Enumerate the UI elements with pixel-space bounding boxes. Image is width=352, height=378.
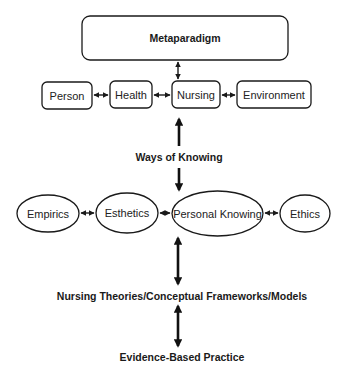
- metaparadigm-node: Metaparadigm: [82, 16, 288, 60]
- pattern-ethics: Ethics: [280, 195, 330, 232]
- metaparadigm-label: Metaparadigm: [149, 32, 220, 44]
- pattern-personal-knowing: Personal Knowing: [172, 191, 263, 236]
- pattern-esthetics: Esthetics: [96, 193, 158, 233]
- personal-knowing-label: Personal Knowing: [173, 208, 262, 220]
- ethics-label: Ethics: [290, 208, 320, 220]
- environment-label: Environment: [243, 89, 305, 101]
- practice-label: Evidence-Based Practice: [120, 351, 245, 363]
- pattern-empirics: Empirics: [17, 195, 79, 232]
- ways-of-knowing-label: Ways of Knowing: [135, 151, 222, 163]
- theories-label: Nursing Theories/Conceptual Frameworks/M…: [57, 290, 307, 302]
- health-label: Health: [115, 89, 147, 101]
- empirics-label: Empirics: [27, 208, 70, 220]
- esthetics-label: Esthetics: [105, 207, 150, 219]
- concept-nursing: Nursing: [172, 81, 220, 108]
- person-label: Person: [50, 90, 85, 102]
- nursing-knowledge-diagram: Metaparadigm Person Health Nursing Envir…: [0, 0, 352, 378]
- concept-environment: Environment: [237, 81, 311, 108]
- concept-health: Health: [110, 81, 152, 108]
- nursing-label: Nursing: [177, 89, 215, 101]
- concept-person: Person: [42, 82, 92, 109]
